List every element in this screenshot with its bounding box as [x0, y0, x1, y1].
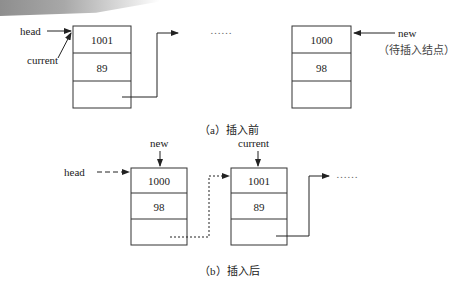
new-label-b: new — [150, 137, 168, 149]
node-b-current-value: 89 — [231, 201, 287, 213]
node-b-current-id: 1001 — [231, 175, 287, 187]
node-b-new-id: 1000 — [131, 175, 187, 187]
current-arrow-a — [58, 33, 71, 58]
caption-a: （a）插入前 — [199, 121, 259, 137]
current-label-a: current — [27, 54, 58, 66]
node-b-new-value: 98 — [131, 201, 187, 213]
node-a-new-id: 1000 — [292, 34, 351, 46]
node-a-new-value: 98 — [292, 62, 351, 74]
ellipsis-b: …… — [336, 168, 358, 180]
new-note-a: （待插入结点） — [378, 44, 455, 56]
diagram-lines — [0, 0, 460, 285]
ellipsis-a: …… — [210, 24, 232, 36]
current-label-b: current — [238, 137, 269, 149]
new-label-a: new — [398, 27, 416, 39]
node-a-current-value: 89 — [73, 62, 131, 74]
caption-b: （b）插入后 — [199, 262, 260, 278]
head-label-b: head — [64, 166, 85, 178]
node-a-current-id: 1001 — [73, 34, 131, 46]
head-label-a: head — [20, 25, 41, 37]
